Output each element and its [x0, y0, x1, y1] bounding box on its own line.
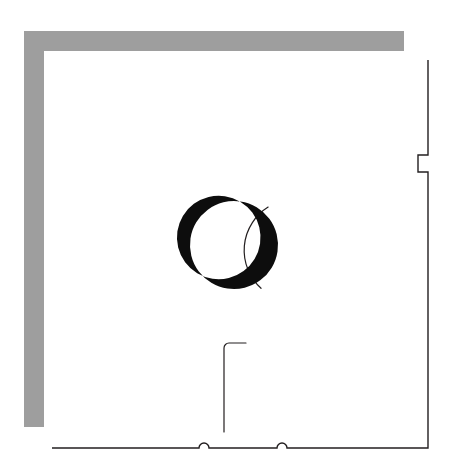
background-rect: [0, 0, 457, 475]
floppy-disk-illustration: [0, 0, 457, 475]
artboard: Minimalist line illustration of a 5.25 i…: [0, 0, 457, 475]
